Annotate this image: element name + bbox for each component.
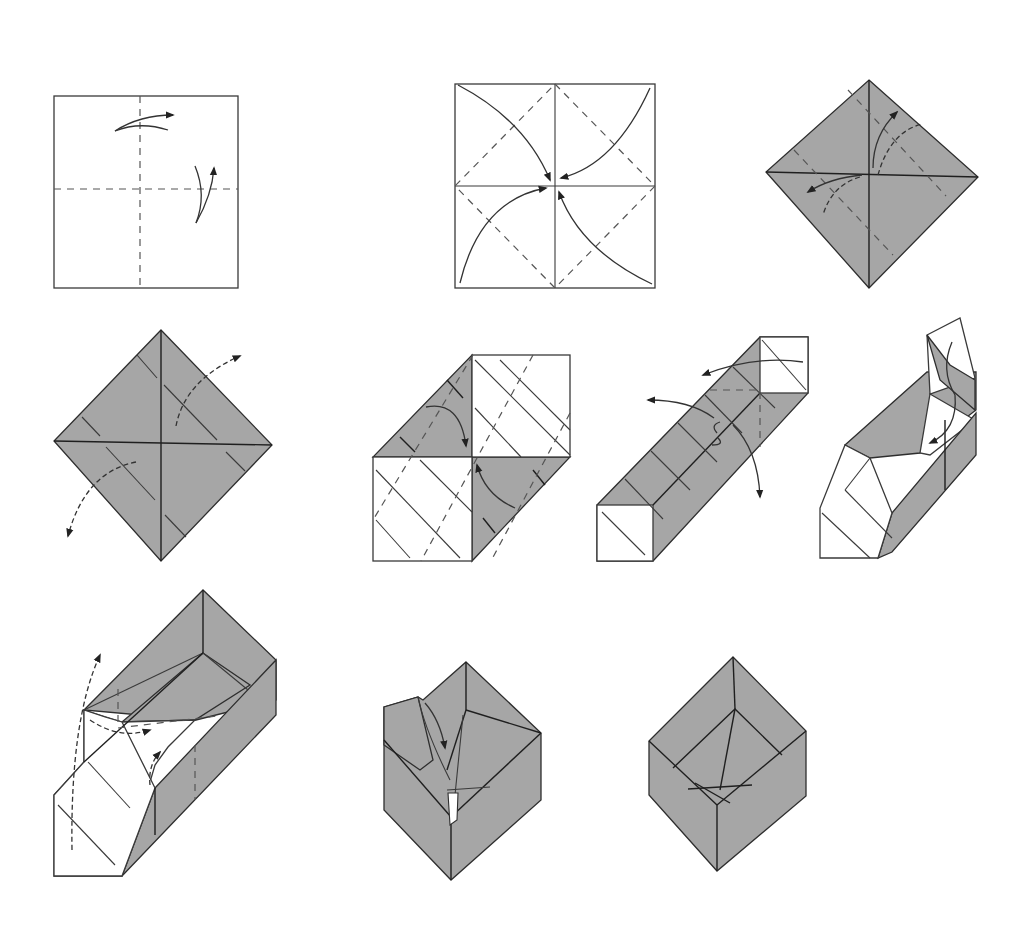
step-9-lock-corner (384, 662, 541, 880)
colored-triangle-bottom (472, 457, 570, 561)
step-7-raise-walls (820, 318, 976, 558)
white-square-bottom (373, 457, 472, 561)
step-5-collapse (373, 355, 570, 561)
colored-triangle-top (373, 355, 472, 457)
white-square-end-bottom (597, 505, 653, 561)
box-body (384, 662, 541, 880)
colored-diamond (766, 80, 978, 288)
step-2-blintz (455, 84, 655, 288)
step-6-strip (597, 337, 808, 561)
step-1-square-creases (54, 96, 238, 288)
colored-diamond (54, 330, 272, 561)
step-10-finished-box (649, 657, 806, 871)
paper-square (54, 96, 238, 288)
step-3-diamond (766, 80, 978, 288)
origami-box-diagram (0, 0, 1031, 936)
step-4-diamond-unfold (54, 330, 272, 561)
step-8-form-box (54, 590, 276, 876)
gap (448, 793, 458, 825)
